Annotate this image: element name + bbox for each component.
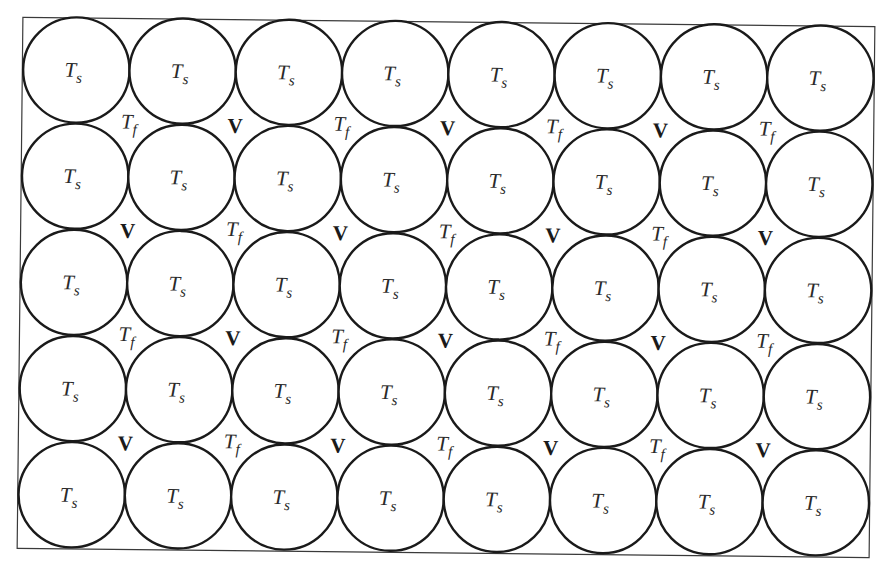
solid-particle: Ts <box>764 237 872 343</box>
solid-particle: Ts <box>340 126 448 232</box>
fluid-temperature-subscript: f <box>770 128 776 144</box>
particles-layer: TsTsTsTsTsTsTsTsTsTsTsTsTsTsTsTsTsTsTsTs… <box>18 17 874 556</box>
solid-temperature-subscript: s <box>816 503 822 519</box>
void-label: V <box>118 431 133 455</box>
solid-particle: Ts <box>23 17 131 123</box>
void-label: V <box>438 328 453 352</box>
void-label: V <box>543 436 558 460</box>
solid-particle: Ts <box>447 128 555 234</box>
fluid-temperature-subscript: f <box>133 122 139 138</box>
solid-particle: Ts <box>444 340 552 446</box>
solid-particle: Ts <box>124 443 232 549</box>
solid-temperature-subscript: s <box>74 282 80 298</box>
solid-temperature-subscript: s <box>603 500 609 516</box>
fluid-temperature-subscript: f <box>343 336 349 352</box>
solid-temperature-subscript: s <box>818 290 824 306</box>
interstice: V <box>330 433 345 457</box>
void-label: V <box>225 326 240 350</box>
solid-temperature-subscript: s <box>390 498 396 514</box>
solid-particle: Ts <box>233 232 341 338</box>
solid-particle: Ts <box>658 236 766 342</box>
interstice: Tf <box>546 114 564 142</box>
fluid-temperature-subscript: f <box>345 124 351 140</box>
interstice: Tf <box>756 329 774 357</box>
solid-particle: Ts <box>337 445 445 551</box>
fluid-temperature-subscript: f <box>450 231 456 247</box>
solid-particle: Ts <box>338 339 446 445</box>
solid-temperature-subscript: s <box>393 286 399 302</box>
interstice: Tf <box>649 434 667 462</box>
interstice: Tf <box>331 324 349 352</box>
interstice: V <box>120 219 135 243</box>
void-label: V <box>545 223 560 247</box>
solid-temperature-subscript: s <box>709 502 715 518</box>
void-label: V <box>120 219 135 243</box>
interstice: V <box>755 438 770 462</box>
solid-particle: Ts <box>443 446 551 552</box>
interstice: V <box>225 326 240 350</box>
fluid-temperature-label: Tf <box>756 329 774 357</box>
interstice: V <box>543 436 558 460</box>
solid-temperature-subscript: s <box>179 390 185 406</box>
interstice: V <box>650 331 665 355</box>
fluid-temperature-label: Tf <box>226 217 244 245</box>
solid-temperature-subscript: s <box>180 283 186 299</box>
interstice: Tf <box>651 222 669 250</box>
void-label: V <box>440 116 455 140</box>
fluid-temperature-label: Tf <box>649 434 667 462</box>
interstice: Tf <box>119 322 137 350</box>
interstice: V <box>653 118 668 142</box>
solid-temperature-subscript: s <box>394 180 400 196</box>
fluid-temperature-label: Tf <box>436 432 454 460</box>
solid-particle: Ts <box>659 130 767 236</box>
solid-temperature-subscript: s <box>498 393 504 409</box>
fluid-temperature-subscript: f <box>661 446 667 462</box>
void-label: V <box>653 118 668 142</box>
solid-temperature-subscript: s <box>820 78 826 94</box>
fluid-temperature-subscript: f <box>558 126 564 142</box>
solid-temperature-subscript: s <box>500 181 506 197</box>
solid-temperature-subscript: s <box>391 392 397 408</box>
interstice: V <box>118 431 133 455</box>
void-label: V <box>227 114 242 138</box>
solid-particle: Ts <box>20 229 128 335</box>
solid-particle: Ts <box>234 125 342 231</box>
solid-temperature-subscript: s <box>288 178 294 194</box>
fluid-temperature-subscript: f <box>238 229 244 245</box>
solid-particle: Ts <box>19 335 127 441</box>
interstice: Tf <box>436 432 454 460</box>
fluid-temperature-label: Tf <box>331 324 349 352</box>
solid-temperature-subscript: s <box>284 497 290 513</box>
void-label: V <box>758 226 773 250</box>
solid-particle: Ts <box>554 23 662 129</box>
solid-particle: Ts <box>128 124 236 230</box>
void-label: V <box>330 433 345 457</box>
solid-particle: Ts <box>763 343 871 449</box>
interstice: V <box>440 116 455 140</box>
solid-temperature-subscript: s <box>710 395 716 411</box>
fluid-temperature-subscript: f <box>130 334 136 350</box>
solid-temperature-subscript: s <box>817 396 823 412</box>
solid-temperature-subscript: s <box>181 177 187 193</box>
solid-temperature-subscript: s <box>604 394 610 410</box>
solid-particle: Ts <box>765 131 873 237</box>
solid-temperature-subscript: s <box>395 73 401 89</box>
fluid-temperature-label: Tf <box>651 222 669 250</box>
void-label: V <box>650 331 665 355</box>
fluid-temperature-label: Tf <box>333 112 351 140</box>
fluid-temperature-subscript: f <box>555 339 561 355</box>
solid-temperature-subscript: s <box>712 289 718 305</box>
solid-temperature-subscript: s <box>182 71 188 87</box>
solid-temperature-subscript: s <box>608 76 614 92</box>
interstice: Tf <box>333 112 351 140</box>
interstice: Tf <box>439 219 457 247</box>
solid-temperature-subscript: s <box>285 391 291 407</box>
solid-particle: Ts <box>762 450 870 556</box>
fluid-temperature-subscript: f <box>235 441 241 457</box>
fluid-temperature-label: Tf <box>544 327 562 355</box>
solid-temperature-subscript: s <box>71 495 77 511</box>
solid-particle: Ts <box>231 444 339 550</box>
solid-particle: Ts <box>553 129 661 235</box>
solid-particle: Ts <box>656 448 764 554</box>
solid-particle: Ts <box>660 24 768 130</box>
